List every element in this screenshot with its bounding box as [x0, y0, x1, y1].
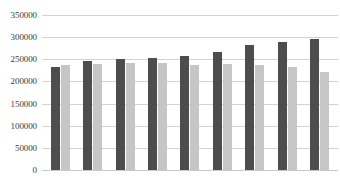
bar-group	[304, 15, 336, 170]
bar-series-2	[255, 65, 264, 170]
bar-series-1	[116, 59, 125, 170]
y-tick-label: 50000	[15, 143, 37, 152]
bar-group	[239, 15, 271, 170]
bar-series-2	[93, 64, 102, 170]
bar-group	[174, 15, 206, 170]
plot-area	[42, 15, 338, 170]
bar-series-2	[126, 63, 135, 170]
y-tick-label: 150000	[11, 99, 37, 108]
y-tick-label: 300000	[11, 33, 37, 42]
bar-series-2	[320, 72, 329, 170]
bar-series-1	[245, 45, 254, 170]
bar-series-2	[288, 67, 297, 170]
bar-series-2	[223, 64, 232, 170]
bar-series-1	[213, 52, 222, 170]
bar-series-1	[310, 39, 319, 170]
bar-group	[109, 15, 141, 170]
axis-baseline	[42, 170, 338, 171]
bar-group	[271, 15, 303, 170]
bar-series-1	[83, 61, 92, 170]
bar-series-2	[61, 65, 70, 170]
bar-series-1	[148, 58, 157, 170]
y-tick-label: 350000	[11, 11, 37, 20]
bar-series-2	[158, 63, 167, 170]
bar-group	[206, 15, 238, 170]
y-tick-label: 200000	[11, 77, 37, 86]
y-tick-label: 0	[33, 166, 37, 175]
bar-groups	[42, 15, 338, 170]
bar-series-1	[278, 42, 287, 170]
y-tick-label: 100000	[11, 121, 37, 130]
y-axis: 0500001000001500002000002500003000003500…	[0, 0, 42, 176]
bar-group	[141, 15, 173, 170]
bar-group	[76, 15, 108, 170]
bar-chart: 0500001000001500002000002500003000003500…	[0, 0, 340, 176]
bar-series-2	[190, 65, 199, 170]
bar-group	[44, 15, 76, 170]
bar-series-1	[51, 67, 60, 170]
y-tick-label: 250000	[11, 55, 37, 64]
bar-series-1	[180, 56, 189, 170]
